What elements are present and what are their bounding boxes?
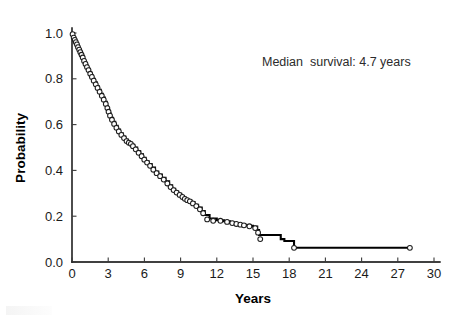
y-tick-label-2: 0.4 — [45, 163, 63, 178]
x-tick-label-5: 15 — [246, 266, 260, 281]
censored-observation-marker — [407, 245, 412, 250]
censored-observation-marker — [253, 226, 258, 231]
censored-observation-marker — [205, 217, 210, 222]
y-tick-label-4: 0.8 — [45, 71, 63, 86]
censored-observation-marker — [256, 230, 261, 235]
censored-observation-marker — [211, 218, 216, 223]
x-axis-ticks: 036912151821242730 — [68, 258, 441, 282]
censored-observation-marker — [225, 220, 230, 225]
censored-observation-marker — [218, 218, 223, 223]
censored-observation-marker — [201, 211, 206, 216]
y-tick-label-1: 0.2 — [45, 209, 63, 224]
censored-observation-marker — [247, 224, 252, 229]
x-tick-label-8: 24 — [354, 266, 368, 281]
y-tick-label-3: 0.6 — [45, 117, 63, 132]
x-tick-label-7: 21 — [318, 266, 332, 281]
y-axis-title: Probability — [13, 113, 28, 183]
median-survival-annotation: Median survival: 4.7 years — [262, 55, 411, 69]
censored-observation-marker — [161, 177, 166, 182]
survival-chart-figure: 0.00.20.40.60.81.0 036912151821242730 Me… — [0, 0, 454, 324]
x-tick-label-2: 6 — [141, 266, 148, 281]
x-tick-label-4: 12 — [210, 266, 224, 281]
x-tick-label-0: 0 — [68, 266, 75, 281]
censored-observation-marker — [258, 237, 263, 242]
censored-observation-marker — [292, 245, 297, 250]
caption-artifact — [6, 306, 52, 315]
x-tick-label-3: 9 — [177, 266, 184, 281]
x-tick-label-1: 3 — [105, 266, 112, 281]
x-tick-label-9: 27 — [391, 266, 405, 281]
y-tick-label-0: 0.0 — [45, 255, 63, 270]
y-tick-label-5: 1.0 — [45, 26, 63, 41]
x-tick-label-6: 18 — [282, 266, 296, 281]
kaplan-meier-plot: 0.00.20.40.60.81.0 036912151821242730 Me… — [0, 0, 454, 324]
censored-observation-marker — [242, 223, 247, 228]
x-axis-title: Years — [235, 291, 271, 306]
x-tick-label-10: 30 — [427, 266, 441, 281]
